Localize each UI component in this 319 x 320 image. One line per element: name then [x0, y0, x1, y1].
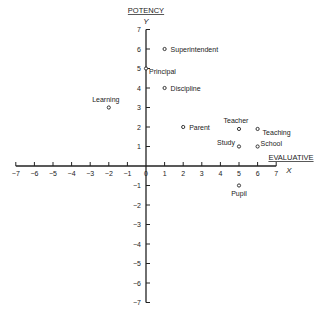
y-tick-label: −1	[133, 182, 141, 189]
point-label: Teacher	[224, 117, 250, 124]
data-point-teaching: Teaching	[256, 127, 291, 137]
point-label: Teaching	[263, 129, 291, 137]
point-label: Parent	[189, 124, 210, 131]
data-point-parent: Parent	[182, 124, 210, 131]
y-axis-title: POTENCY	[128, 6, 164, 15]
y-tick-label: 4	[137, 85, 141, 92]
data-point-discipline: Discipline	[163, 85, 201, 93]
point-label: School	[261, 140, 283, 147]
data-point-learning: Learning	[92, 96, 119, 110]
semantic-differential-chart: −7−6−5−4−3−2−101234567−7−6−5−4−3−2−11234…	[0, 0, 319, 320]
y-tick-label: 2	[137, 124, 141, 131]
point-label: Principal	[149, 68, 176, 76]
point-marker	[182, 125, 185, 128]
x-tick-label: −5	[49, 170, 57, 177]
x-tick-label: −3	[86, 170, 94, 177]
data-point-study: Study	[217, 139, 241, 149]
y-axis-variable: Y	[143, 17, 149, 26]
x-tick-label: −1	[123, 170, 131, 177]
y-tick-label: −3	[133, 221, 141, 228]
x-tick-label: 1	[163, 170, 167, 177]
y-tick-label: −6	[133, 280, 141, 287]
point-marker	[237, 184, 240, 187]
point-label: Pupil	[231, 190, 247, 198]
data-points: SuperintendentPrincipalDisciplineLearnin…	[92, 46, 291, 198]
data-point-school: School	[256, 140, 282, 149]
point-label: Superintendent	[171, 46, 219, 54]
x-tick-label: 7	[274, 170, 278, 177]
x-tick-label: 6	[256, 170, 260, 177]
point-marker	[163, 47, 166, 50]
y-tick-label: −7	[133, 299, 141, 306]
point-label: Study	[217, 139, 235, 147]
x-tick-label: −7	[12, 170, 20, 177]
y-tick-label: −5	[133, 260, 141, 267]
x-tick-label: 4	[218, 170, 222, 177]
y-tick-label: −4	[133, 241, 141, 248]
data-point-teacher: Teacher	[224, 117, 250, 131]
point-label: Discipline	[171, 85, 201, 93]
x-tick-label: 5	[237, 170, 241, 177]
y-tick-label: 1	[137, 143, 141, 150]
x-tick-label: −4	[68, 170, 76, 177]
data-point-pupil: Pupil	[231, 184, 247, 198]
y-tick-label: 6	[137, 46, 141, 53]
point-marker	[107, 106, 110, 109]
y-tick-label: 3	[137, 104, 141, 111]
point-marker	[144, 67, 147, 70]
point-marker	[256, 145, 259, 148]
point-marker	[237, 145, 240, 148]
point-label: Learning	[92, 96, 119, 104]
y-tick-label: 5	[137, 65, 141, 72]
point-marker	[237, 127, 240, 130]
y-tick-label: 7	[137, 26, 141, 33]
x-tick-label: −6	[30, 170, 38, 177]
point-marker	[256, 127, 259, 130]
x-tick-label: 3	[200, 170, 204, 177]
x-tick-label: 2	[181, 170, 185, 177]
data-point-superintendent: Superintendent	[163, 46, 218, 54]
y-tick-label: −2	[133, 202, 141, 209]
x-tick-label: −2	[105, 170, 113, 177]
point-marker	[163, 86, 166, 89]
data-point-principal: Principal	[144, 67, 176, 76]
x-axis-variable: X	[285, 166, 292, 175]
x-tick-label: 0	[144, 170, 148, 177]
x-axis-title: EVALUATIVE	[268, 153, 313, 162]
